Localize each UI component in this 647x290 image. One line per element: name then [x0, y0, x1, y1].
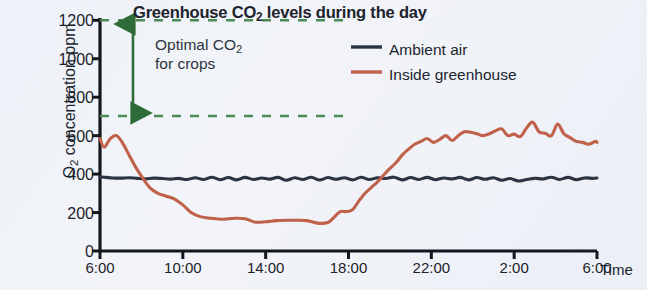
- annotation-line1-subscript: 2: [236, 43, 242, 55]
- y-axis-title-subscript: 2: [68, 160, 80, 166]
- x-tick-label: 10:00: [164, 259, 202, 276]
- legend-label-inside-greenhouse: Inside greenhouse: [389, 66, 517, 84]
- annotation-line1-before: Optimal CO: [155, 36, 236, 53]
- y-tick-label: 1200: [28, 12, 94, 30]
- x-tick-label: 22:00: [413, 259, 451, 276]
- legend-swatches: [351, 47, 382, 72]
- chart-plot-area: [0, 0, 647, 290]
- chart-figure: Greenhouse CO2 levels during the day Opt…: [0, 0, 647, 290]
- y-tick-label: 800: [28, 89, 94, 107]
- chart-title-after: levels during the day: [262, 3, 426, 21]
- data-series-group: [100, 122, 597, 223]
- chart-title: Greenhouse CO2 levels during the day: [133, 4, 427, 21]
- x-tick-label: 6:00: [85, 259, 114, 276]
- annotation-line2: for crops: [155, 55, 215, 72]
- y-tick-label: 1000: [28, 51, 94, 69]
- x-tick-label: 18:00: [330, 259, 368, 276]
- x-tick-label: 2:00: [500, 259, 529, 276]
- y-tick-label: 600: [28, 128, 94, 146]
- series-line-inside-greenhouse: [100, 122, 597, 223]
- series-line-ambient-air: [100, 177, 597, 181]
- y-tick-label: 400: [28, 166, 94, 184]
- legend-label-ambient-air: Ambient air: [389, 41, 467, 59]
- chart-title-subscript: 2: [256, 10, 262, 24]
- x-tick-label: 14:00: [247, 259, 285, 276]
- y-tick-label: 0: [28, 243, 94, 261]
- optimal-co2-annotation-label: Optimal CO2 for crops: [155, 35, 285, 74]
- y-tick-label: 200: [28, 205, 94, 223]
- x-tick-label: 6:00: [582, 259, 611, 276]
- chart-title-before: Greenhouse CO: [133, 3, 256, 21]
